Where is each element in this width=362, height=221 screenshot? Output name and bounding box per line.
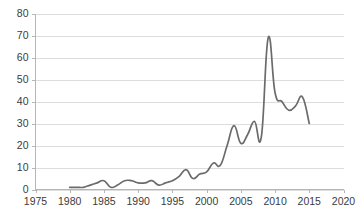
y-tick-label: 40 [17, 95, 29, 107]
line-chart: 01020304050607080 1975198019851990199520… [0, 0, 362, 221]
x-axis-tick-labels: 1975198019851990199520002005201020152020 [24, 195, 356, 207]
x-tick-label: 1980 [58, 195, 82, 207]
y-tick-label: 70 [17, 29, 29, 41]
y-tick-label: 80 [17, 7, 29, 19]
y-tick-label: 10 [17, 161, 29, 173]
y-tick-label: 60 [17, 51, 29, 63]
x-tick-label: 2015 [298, 195, 322, 207]
y-tick-marks [32, 15, 36, 191]
x-tick-label: 1990 [126, 195, 150, 207]
x-tick-label: 2005 [229, 195, 253, 207]
x-tick-label: 2010 [263, 195, 287, 207]
data-series [70, 36, 310, 187]
x-tick-label: 1995 [161, 195, 185, 207]
x-tick-marks [37, 190, 345, 194]
series-line-series-1 [70, 36, 310, 187]
x-tick-label: 1975 [24, 195, 48, 207]
y-tick-label: 0 [23, 183, 29, 195]
x-tick-label: 2020 [332, 195, 356, 207]
y-axis-tick-labels: 01020304050607080 [17, 7, 29, 195]
y-tick-label: 50 [17, 73, 29, 85]
x-tick-label: 1985 [92, 195, 116, 207]
chart-canvas: 01020304050607080 1975198019851990199520… [0, 0, 362, 221]
x-tick-label: 2000 [195, 195, 219, 207]
y-tick-label: 30 [17, 117, 29, 129]
y-tick-label: 20 [17, 139, 29, 151]
